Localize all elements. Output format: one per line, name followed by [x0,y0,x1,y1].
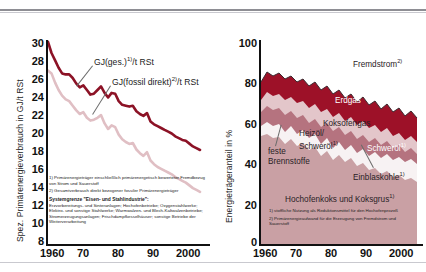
right-y-tick-60: 60 [231,118,257,130]
label-feste-brennstoffe: festeBrennstoffe [268,147,312,166]
left-x-tick-80: 80 [112,247,124,259]
right-x-axis-line [259,244,423,246]
label-fremdstrom: Fremdstrom2) [353,57,402,69]
right-y-tick-100: 100 [231,37,257,49]
label-gj-fossil: GJ(fossil direkt)2)/t RSt [112,76,199,87]
left-y-tick-14: 14 [22,181,44,193]
left-x-tick-90: 90 [147,247,159,259]
left-y-tick-24: 24 [22,91,44,103]
bottom-divider [0,262,426,263]
left-y-tick-8: 8 [22,235,44,247]
left-y-tick-18: 18 [22,145,44,157]
right-x-tick-2000: 2000 [389,247,413,259]
left-footnotes: 1) Primärenergieträger einschließlich pr… [49,175,207,225]
left-x-tick-2000: 2000 [176,247,200,259]
right-x-tick-70: 70 [290,247,302,259]
label-gj-ges: GJ(ges.)1)/t RSt [94,56,154,67]
label-hochofenkoks: Hochofenkoks und Koksgrus1) [285,192,394,204]
right-x-tick-1960: 1960 [253,247,277,259]
right-y-tick-80: 80 [231,77,257,89]
right-footnotes: 1) stoffliche Nutzung als Reduktionsmitt… [269,208,399,229]
top-divider-secondary [0,12,426,13]
left-y-tick-20: 20 [22,127,44,139]
left-chart-panel: Spez. Primärenergieverbrauch in GJ/t RSt… [0,18,213,262]
left-y-tick-26: 26 [22,73,44,85]
right-y-axis-line [259,40,261,244]
label-erdgas: Erdgas [335,96,361,106]
label-koksofengas: Koksofengas [323,119,370,129]
left-footnote-2: 2) Gesamtverbrauch direkt bezogener foss… [49,188,207,194]
label-einblaskohle: Einblaskohle1) [353,170,405,182]
left-y-tick-28: 28 [22,55,44,67]
left-x-tick-1960: 1960 [40,247,64,259]
left-y-tick-10: 10 [22,217,44,229]
right-y-tick-40: 40 [231,158,257,170]
left-y-tick-30: 30 [22,37,44,49]
left-y-tick-16: 16 [22,163,44,175]
left-y-tick-12: 12 [22,199,44,211]
left-footnote-1: 1) Primärenergieträger einschließlich pr… [49,175,207,186]
right-x-tick-90: 90 [360,247,372,259]
right-x-tick-80: 80 [325,247,337,259]
label-schweroel: Schweröl1) [367,141,406,153]
left-x-tick-70: 70 [77,247,89,259]
left-system-text: Erzvorbereitungs- und Sinteranlagen; Hoc… [49,203,207,225]
left-y-tick-22: 22 [22,109,44,121]
left-x-axis-line [46,244,210,246]
top-divider [0,9,426,11]
right-footnote-1: 1) stoffliche Nutzung als Reduktionsmitt… [269,208,399,214]
series-gj-fossil [48,71,200,192]
left-y-axis-line [46,40,48,244]
right-y-tick-20: 20 [231,199,257,211]
right-chart-panel: Energieträgeranteil in % 100 80 60 40 20… [213,18,426,262]
right-footnote-2: 2) Primärenergieaufwand für die Erzeugun… [269,216,399,227]
